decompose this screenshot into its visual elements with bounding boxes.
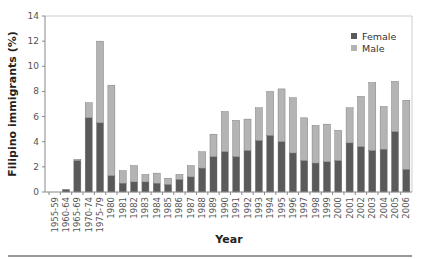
- bar-segment-male: [357, 96, 364, 146]
- bar-segment-male: [131, 166, 138, 182]
- bar-segment-female: [233, 157, 240, 192]
- bar-segment-female: [176, 179, 183, 192]
- bar-segment-male: [119, 171, 126, 184]
- bar-segment-female: [97, 123, 104, 192]
- bar-segment-male: [142, 174, 149, 182]
- bar-segment-male: [391, 81, 398, 131]
- bar-segment-male: [244, 119, 251, 150]
- x-tick-label: 1960-64: [61, 197, 71, 233]
- x-tick-label: 1970-74: [84, 197, 94, 233]
- legend: Female Male: [351, 31, 397, 54]
- y-tick-label: 10: [28, 61, 40, 71]
- bar-segment-male: [255, 108, 262, 141]
- x-tick-label: 1990: [220, 197, 230, 219]
- x-tick-label: 1996: [288, 197, 298, 219]
- bar-segment-female: [244, 151, 251, 192]
- y-tick-label: 12: [28, 36, 39, 46]
- bar-segment-female: [199, 168, 206, 192]
- x-tick-label: 2005: [390, 197, 400, 219]
- bar-segment-male: [312, 125, 319, 163]
- x-tick-label: 1994: [265, 197, 275, 219]
- bar-segment-male: [403, 100, 410, 169]
- x-tick-label: 1993: [254, 197, 264, 219]
- bar-segment-male: [210, 134, 217, 157]
- x-tick-label: 1955-59: [50, 197, 60, 233]
- bar-segment-female: [323, 162, 330, 192]
- bar-segment-female: [403, 169, 410, 192]
- y-tick-label: 6: [33, 112, 39, 122]
- x-tick-label: 1975-79: [95, 197, 105, 233]
- x-axis-title: Year: [214, 233, 243, 246]
- x-tick-label: 1992: [243, 197, 253, 219]
- bar-segment-female: [108, 176, 115, 192]
- x-axis-labels: 1955-591960-641965-691970-741975-7919801…: [49, 192, 411, 233]
- bar-segment-female: [289, 153, 296, 192]
- y-tick-label: 0: [33, 187, 39, 197]
- x-tick-label: 2003: [367, 197, 377, 219]
- bar-segment-male: [233, 120, 240, 156]
- bar-segment-female: [153, 183, 160, 192]
- bar-segment-male: [380, 107, 387, 150]
- x-tick-label: 1988: [197, 197, 207, 219]
- y-tick-label: 8: [33, 86, 39, 96]
- x-tick-label: 1980: [106, 197, 116, 219]
- y-tick-label: 2: [33, 162, 39, 172]
- x-tick-label: 1985: [163, 197, 173, 219]
- bar-segment-female: [119, 183, 126, 192]
- bar-segment-female: [335, 161, 342, 192]
- y-axis-title: Filipino immigrants (%): [6, 31, 19, 176]
- bar-segment-male: [108, 85, 115, 176]
- y-tick-label: 14: [28, 11, 40, 21]
- bar-segment-female: [357, 147, 364, 192]
- bar-segment-male: [199, 152, 206, 168]
- x-tick-label: 2001: [345, 197, 355, 219]
- bar-segment-male: [335, 130, 342, 160]
- x-tick-label: 2006: [401, 197, 411, 219]
- stacked-bar-chart: 02468101214 1955-591960-641965-691970-74…: [0, 0, 430, 259]
- legend-label-male: Male: [362, 43, 385, 54]
- x-tick-label: 2004: [379, 197, 389, 219]
- bar-segment-male: [323, 124, 330, 162]
- legend-swatch-female: [351, 33, 357, 39]
- bar-segment-male: [267, 91, 274, 135]
- bar-segment-male: [221, 112, 228, 152]
- x-tick-label: 2000: [333, 197, 343, 219]
- legend-label-female: Female: [362, 31, 397, 42]
- bar-segment-male: [346, 108, 353, 143]
- x-tick-label: 1989: [208, 197, 218, 219]
- bar-segment-male: [74, 159, 81, 160]
- bar-segment-female: [380, 149, 387, 192]
- x-tick-label: 1983: [140, 197, 150, 219]
- bar-segment-female: [255, 140, 262, 192]
- bar-segment-male: [187, 166, 194, 177]
- bar-segment-female: [221, 152, 228, 192]
- x-tick-label: 1965-69: [72, 197, 82, 233]
- bar-segment-male: [176, 174, 183, 179]
- bar-segment-female: [301, 161, 308, 192]
- bar-segment-female: [346, 143, 353, 192]
- x-tick-label: 1982: [129, 197, 139, 219]
- bar-segment-male: [97, 41, 104, 123]
- bar-segment-female: [267, 135, 274, 192]
- bar-segment-male: [278, 89, 285, 142]
- legend-swatch-male: [351, 45, 357, 51]
- x-tick-label: 1995: [277, 197, 287, 219]
- x-tick-label: 1991: [231, 197, 241, 219]
- bar-segment-male: [85, 103, 92, 118]
- bar-segment-female: [142, 182, 149, 192]
- bar-segment-female: [74, 161, 81, 192]
- x-tick-label: 1999: [322, 197, 332, 219]
- x-tick-label: 1997: [299, 197, 309, 219]
- x-tick-label: 1998: [311, 197, 321, 219]
- x-tick-label: 1984: [152, 197, 162, 219]
- bars: [62, 41, 409, 192]
- y-axis: 02468101214: [28, 11, 45, 197]
- bar-segment-male: [165, 178, 172, 184]
- bar-segment-female: [187, 177, 194, 192]
- bar-segment-female: [210, 157, 217, 192]
- bar-segment-female: [278, 142, 285, 192]
- bar-segment-male: [369, 83, 376, 151]
- bar-segment-female: [165, 184, 172, 192]
- bar-segment-male: [301, 118, 308, 161]
- bar-segment-female: [369, 151, 376, 192]
